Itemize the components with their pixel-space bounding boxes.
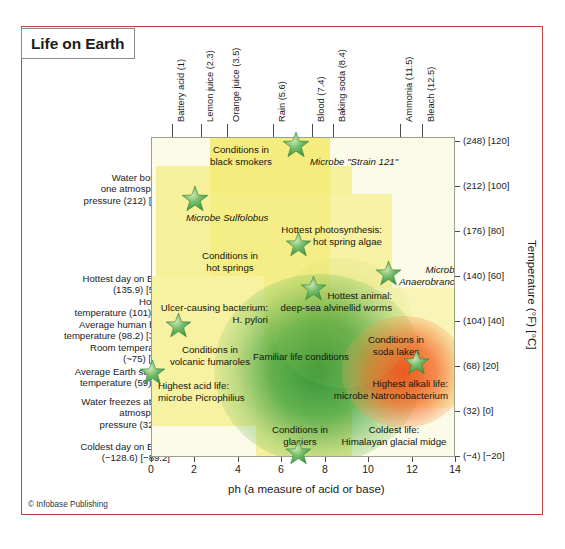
left-ref-water-boils: Water boils at one atmosphere pressure (…: [28, 172, 170, 206]
y-tick-label-6: (32) [0]: [463, 405, 493, 416]
left-ref-coldest-day: Coldest day on Earth (−128.6) [−89.2]: [28, 441, 170, 464]
x-tick-0: [151, 457, 152, 462]
x-axis-title: ph (a measure of acid or base): [228, 483, 385, 495]
star-marker-h-pylori: [165, 312, 192, 339]
y-tick-label-1: (212) [100]: [463, 180, 509, 191]
y-tick-3: [455, 276, 460, 277]
top-tick-lemon-juice: [201, 124, 202, 137]
left-ref-hottest-day: Hottest day on Earth (135.9) [57.7]: [28, 273, 170, 296]
infographic-root: Life on Earth Water boils at one atmosph…: [0, 0, 565, 549]
left-ref-hot-tub: Hot tub temperature (101) [40]: [28, 296, 170, 319]
top-tick-ammonia: [400, 124, 401, 137]
top-tick-bleach: [422, 124, 423, 137]
x-tick-6: [412, 457, 413, 462]
left-ref-human-body: Average human body temperature (98.2) [3…: [28, 319, 170, 342]
top-label-battery-acid: Battery acid (1): [176, 59, 186, 122]
y-tick-0: [455, 141, 460, 142]
page-title-text: Life on Earth: [31, 35, 124, 53]
y-tick-5: [455, 366, 460, 367]
star-marker-glacial-midge: [285, 439, 312, 466]
plot-label-alvinellid-worms: Hottest animal: deep-sea alvinellid worm…: [264, 290, 392, 313]
x-tick-1: [194, 457, 195, 462]
plot-label-hot-spring-algae: Hottest photosynthesis: hot spring algae: [258, 224, 382, 247]
copyright-credit: © Infobase Publishing: [28, 500, 108, 509]
page-title: Life on Earth: [21, 28, 135, 59]
top-tick-blood: [312, 124, 313, 137]
left-ref-water-freezes: Water freezes at one atmosphere pressure…: [28, 396, 170, 430]
top-label-orange-juice: Orange juice (3.5): [231, 48, 241, 122]
x-tick-label-0: 0: [141, 463, 161, 475]
top-label-bleach: Bleach (12.5): [426, 67, 436, 122]
top-label-baking-soda: Baking soda (8.4): [337, 49, 347, 122]
y-tick-label-0: (248) [120]: [463, 135, 509, 146]
plot-label-natronobacterium: Highest alkali life: microbe Natronobact…: [296, 378, 448, 401]
star-marker-alvinellid-worms: [300, 275, 327, 302]
x-tick-3: [281, 457, 282, 462]
y-tick-4: [455, 321, 460, 322]
plot-label-strain-121: Microbe "Strain 121": [310, 156, 450, 168]
star-marker-anaerobranca: [375, 260, 402, 287]
x-tick-label-2: 4: [228, 463, 248, 475]
star-marker-sulfolobus: [181, 185, 209, 213]
plot-label-black-smokers: Conditions in black smokers: [190, 144, 292, 167]
plot-label-hot-springs: Conditions in hot springs: [172, 250, 288, 273]
star-marker-picrophilius: [139, 359, 166, 386]
x-tick-label-7: 14: [445, 463, 465, 475]
x-tick-label-3: 6: [271, 463, 291, 475]
y-axis-title: Temperature (°F) [°C]: [526, 240, 538, 350]
y-tick-label-3: (140) [60]: [463, 270, 504, 281]
top-label-lemon-juice: Lemon juice (2.3): [205, 50, 215, 122]
y-tick-label-7: (−4) [−20]: [463, 450, 505, 461]
y-tick-label-4: (104) [40]: [463, 315, 504, 326]
x-tick-2: [238, 457, 239, 462]
x-tick-label-4: 8: [315, 463, 335, 475]
top-tick-baking-soda: [333, 124, 334, 137]
star-marker-hot-spring-algae: [285, 231, 312, 258]
plot-label-familiar-life: Familiar life conditions: [240, 351, 362, 363]
y-tick-1: [455, 186, 460, 187]
y-tick-label-2: (176) [80]: [463, 225, 504, 236]
x-tick-label-6: 12: [402, 463, 422, 475]
plot-label-sulfolobus: Microbe Sulfolobus: [186, 212, 314, 224]
x-tick-5: [368, 457, 369, 462]
plot-label-picrophilius: Highest acid life: microbe Picrophilius: [158, 380, 300, 403]
star-marker-strain-121: [282, 131, 310, 159]
x-tick-4: [325, 457, 326, 462]
top-label-blood: Blood (7.4): [316, 77, 326, 122]
y-tick-label-5: (68) [20]: [463, 360, 499, 371]
top-label-ammonia: Ammonia (11.5): [404, 57, 414, 122]
top-tick-battery-acid: [172, 124, 173, 137]
top-label-rain: Rain (5.6): [277, 81, 287, 122]
x-tick-label-1: 2: [184, 463, 204, 475]
y-tick-6: [455, 411, 460, 412]
plot-label-glacial-midge: Coldest life: Himalayan glacial midge: [334, 424, 454, 447]
top-tick-rain: [273, 124, 274, 137]
x-tick-label-5: 10: [358, 463, 378, 475]
x-tick-7: [455, 457, 456, 462]
y-tick-2: [455, 231, 460, 232]
star-marker-natronobacterium: [403, 349, 430, 376]
top-tick-orange-juice: [227, 124, 228, 137]
